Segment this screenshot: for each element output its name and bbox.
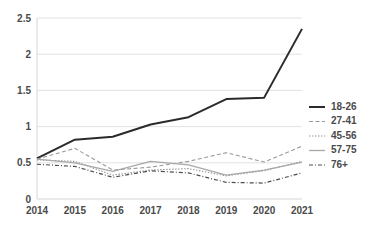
gridlines — [37, 18, 302, 199]
y-tick-label: 0.5 — [17, 157, 31, 168]
series-lines — [37, 29, 302, 183]
series-line-76plus — [37, 164, 302, 183]
y-tick-label: 1 — [25, 121, 31, 132]
x-tick-label: 2016 — [102, 205, 125, 216]
series-line-45-56 — [37, 160, 302, 176]
x-tick-label: 2015 — [64, 205, 87, 216]
x-tick-label: 2020 — [253, 205, 276, 216]
y-axis-tick-labels: 00.511.522.5 — [17, 13, 31, 205]
x-tick-label: 2014 — [26, 205, 49, 216]
x-tick-label: 2021 — [291, 205, 314, 216]
x-tick-label: 2019 — [215, 205, 238, 216]
y-tick-label: 2.5 — [17, 13, 31, 24]
series-line-18-26 — [37, 29, 302, 159]
y-tick-label: 1.5 — [17, 85, 31, 96]
legend-label-27-41: 27-41 — [331, 115, 357, 126]
chart-legend: 18-2627-4145-5657-7576+ — [309, 101, 357, 170]
x-tick-label: 2017 — [139, 205, 162, 216]
legend-label-57-75: 57-75 — [331, 144, 357, 155]
legend-label-76plus: 76+ — [331, 159, 348, 170]
legend-label-45-56: 45-56 — [331, 130, 357, 141]
line-chart: 00.511.522.5 201420152016201720182019202… — [0, 0, 373, 231]
legend-label-18-26: 18-26 — [331, 101, 357, 112]
x-tick-label: 2018 — [177, 205, 200, 216]
y-tick-label: 0 — [25, 194, 31, 205]
y-tick-label: 2 — [25, 49, 31, 60]
x-axis-tick-labels: 20142015201620172018201920202021 — [26, 205, 314, 216]
chart-canvas: 00.511.522.5 201420152016201720182019202… — [0, 0, 373, 231]
